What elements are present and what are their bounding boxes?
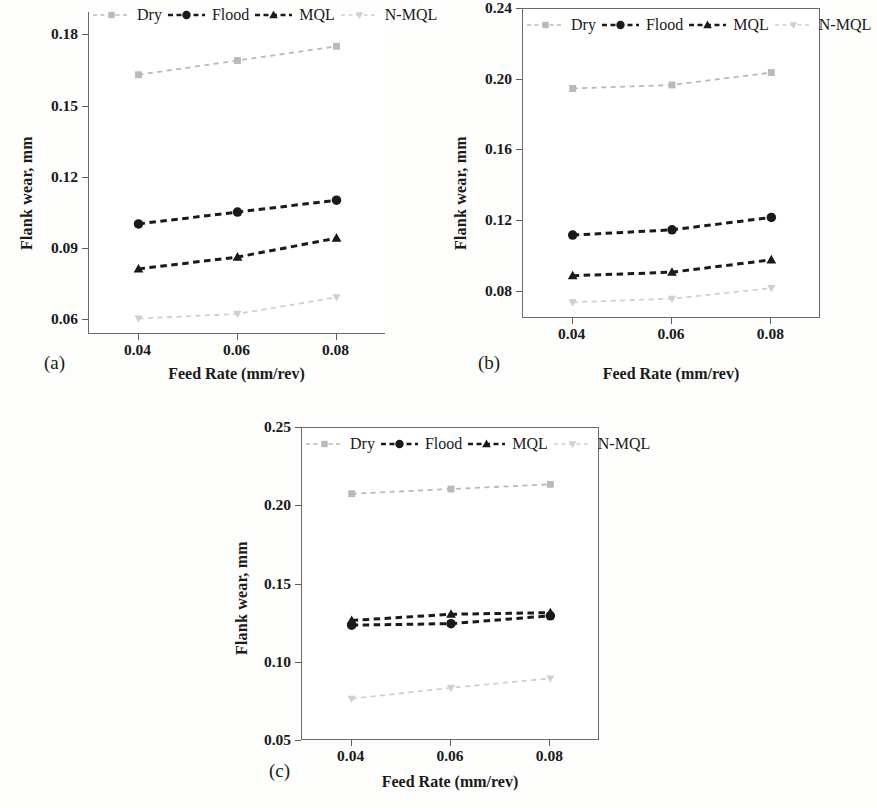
y-axis-tick-mark — [82, 106, 88, 107]
series-layer — [302, 428, 600, 741]
legend-symbol-triangle-down-icon — [553, 436, 593, 452]
y-axis-tick-label: 0.05 — [264, 731, 291, 749]
x-axis-tick-label: 0.08 — [322, 341, 349, 359]
y-axis-tick-label: 0.12 — [485, 211, 512, 229]
series-n-mql — [348, 675, 555, 703]
chart-panel-c: Flank wear, mm Feed Rate (mm/rev) (c) 0.… — [219, 405, 659, 808]
data-point-marker — [333, 43, 340, 50]
chart-panel-a: Flank wear, mm Feed Rate (mm/rev) (a) 0.… — [0, 0, 440, 400]
legend-label: N-MQL — [593, 435, 655, 453]
series-n-mql — [569, 285, 776, 306]
legend-symbol-triangle-down-icon — [340, 7, 380, 23]
legend-entry-n-mql[interactable]: N-MQL — [774, 16, 876, 34]
legend-entry-mql[interactable]: MQL — [254, 6, 340, 24]
legend-symbol-square-icon — [305, 436, 345, 452]
x-axis-label-c: Feed Rate (mm/rev) — [301, 773, 599, 791]
y-axis-tick-mark — [295, 584, 301, 585]
data-point-marker — [669, 82, 676, 89]
legend-label: Dry — [566, 16, 601, 34]
x-axis-tick-label: 0.06 — [223, 341, 250, 359]
data-point-marker — [767, 285, 775, 292]
legend-symbol-circle-icon — [601, 17, 641, 33]
x-axis-tick-label: 0.06 — [436, 747, 463, 765]
data-point-marker — [569, 85, 576, 92]
data-point-marker — [446, 619, 456, 629]
chart-panel-b: Flank wear, mm Feed Rate (mm/rev) (b) 0.… — [440, 0, 877, 400]
chart-legend: DryFloodMQLN-MQL — [92, 6, 442, 24]
legend-entry-dry[interactable]: Dry — [526, 16, 601, 34]
series-layer — [89, 12, 386, 334]
y-axis-tick-label: 0.20 — [264, 496, 291, 514]
legend-symbol-triangle-icon — [688, 17, 728, 33]
legend-label: Flood — [420, 435, 467, 453]
legend-entry-dry[interactable]: Dry — [92, 6, 167, 24]
y-axis-tick-label: 0.09 — [51, 239, 78, 257]
data-point-marker — [348, 490, 355, 497]
legend-entry-flood[interactable]: Flood — [380, 435, 467, 453]
legend-entry-flood[interactable]: Flood — [167, 6, 254, 24]
plot-area-a — [88, 12, 385, 334]
panel-letter-a: (a) — [44, 352, 65, 374]
y-axis-tick-mark — [516, 291, 522, 292]
legend-symbol-circle-icon — [380, 436, 420, 452]
legend-symbol-square-icon — [92, 7, 132, 23]
legend-entry-dry[interactable]: Dry — [305, 435, 380, 453]
legend-label: Flood — [641, 16, 688, 34]
series-dry — [569, 69, 775, 92]
series-mql — [568, 255, 776, 279]
legend-symbol-triangle-down-icon — [774, 17, 814, 33]
y-axis-tick-mark — [82, 177, 88, 178]
legend-entry-flood[interactable]: Flood — [601, 16, 688, 34]
x-axis-tick-mark — [549, 740, 550, 746]
series-n-mql — [134, 294, 340, 323]
x-axis-tick-label: 0.04 — [558, 325, 585, 343]
data-point-marker — [134, 219, 144, 229]
y-axis-tick-mark — [516, 149, 522, 150]
x-axis-tick-mark — [336, 334, 337, 340]
data-point-marker — [234, 57, 241, 64]
legend-entry-n-mql[interactable]: N-MQL — [553, 435, 655, 453]
y-axis-tick-mark — [295, 505, 301, 506]
data-point-marker — [332, 195, 342, 205]
x-axis-tick-label: 0.04 — [337, 747, 364, 765]
data-point-marker — [233, 207, 243, 217]
y-axis-tick-mark — [295, 427, 301, 428]
legend-entry-mql[interactable]: MQL — [467, 435, 553, 453]
y-axis-tick-mark — [516, 8, 522, 9]
data-point-marker — [766, 255, 776, 264]
legend-label: N-MQL — [380, 6, 442, 24]
series-flood — [568, 213, 776, 240]
x-axis-tick-label: 0.08 — [536, 747, 563, 765]
data-point-marker — [332, 294, 340, 301]
y-axis-tick-label: 0.18 — [51, 25, 78, 43]
y-axis-tick-label: 0.20 — [485, 70, 512, 88]
y-axis-tick-mark — [82, 248, 88, 249]
x-axis-tick-label: 0.04 — [124, 341, 151, 359]
figure-flank-wear-vs-feed-rate: Flank wear, mm Feed Rate (mm/rev) (a) 0.… — [0, 0, 877, 808]
plot-area-b — [522, 8, 820, 318]
legend-label: Dry — [345, 435, 380, 453]
legend-entry-mql[interactable]: MQL — [688, 16, 774, 34]
legend-symbol-square-icon — [526, 17, 566, 33]
y-axis-tick-label: 0.25 — [264, 418, 291, 436]
x-axis-tick-label: 0.06 — [657, 325, 684, 343]
y-axis-label-b: Flank wear, mm — [452, 136, 470, 250]
data-point-marker — [348, 696, 356, 703]
y-axis-tick-mark — [295, 662, 301, 663]
legend-entry-n-mql[interactable]: N-MQL — [340, 6, 442, 24]
data-point-marker — [448, 486, 455, 493]
y-axis-tick-label: 0.06 — [51, 310, 78, 328]
data-point-marker — [332, 233, 342, 242]
x-axis-tick-mark — [237, 334, 238, 340]
x-axis-tick-mark — [770, 318, 771, 324]
data-point-marker — [767, 213, 777, 223]
data-point-marker — [547, 481, 554, 488]
legend-label: Flood — [207, 6, 254, 24]
chart-legend: DryFloodMQLN-MQL — [526, 16, 876, 34]
y-axis-tick-mark — [295, 740, 301, 741]
y-axis-tick-label: 0.15 — [51, 97, 78, 115]
x-axis-tick-mark — [572, 318, 573, 324]
series-dry — [348, 481, 554, 497]
x-axis-tick-mark — [450, 740, 451, 746]
series-mql — [134, 233, 342, 272]
